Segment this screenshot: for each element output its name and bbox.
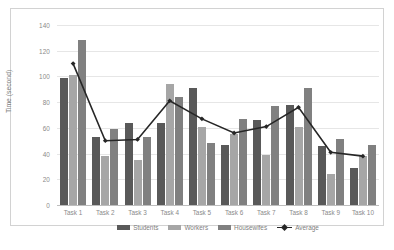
legend-item-students[interactable]: Students	[117, 224, 158, 231]
y-tick-label: 60	[43, 124, 50, 131]
x-tick-label: Task 3	[121, 207, 153, 221]
legend-label: Workers	[184, 224, 208, 231]
chart-frame: Time (second) 020406080100120140 Task 1T…	[10, 8, 384, 226]
bar-workers	[134, 160, 142, 205]
bar-students	[125, 123, 133, 205]
bar-set	[218, 25, 250, 205]
bar-students	[157, 123, 165, 205]
gridline	[57, 205, 379, 206]
legend-item-housewifes[interactable]: Housewifes	[218, 224, 267, 231]
bar-groups	[57, 25, 379, 205]
x-tick-label: Task 6	[218, 207, 250, 221]
bar-workers	[230, 134, 238, 205]
bar-students	[221, 145, 229, 205]
bar-workers	[262, 155, 270, 205]
x-tick-label: Task 8	[282, 207, 314, 221]
bar-group	[121, 25, 153, 205]
bar-students	[350, 168, 358, 205]
bar-students	[286, 105, 294, 205]
bar-set	[282, 25, 314, 205]
bar-workers	[69, 75, 77, 205]
bar-set	[154, 25, 186, 205]
bar-housewifes	[239, 119, 247, 205]
y-tick-label: 0	[46, 202, 50, 209]
legend-label: Students	[133, 224, 158, 231]
legend-swatch-icon	[117, 225, 130, 230]
bar-set	[315, 25, 347, 205]
x-axis-tick-labels: Task 1Task 2Task 3Task 4Task 5Task 6Task…	[57, 207, 379, 221]
bar-set	[250, 25, 282, 205]
bar-workers	[101, 156, 109, 205]
chart-legend: StudentsWorkersHousewifesAverage	[57, 221, 379, 233]
bar-set	[121, 25, 153, 205]
bar-workers	[327, 174, 335, 205]
bar-students	[92, 137, 100, 205]
x-tick-label: Task 5	[186, 207, 218, 221]
y-tick-label: 140	[39, 22, 50, 29]
y-tick-label: 40	[43, 150, 50, 157]
legend-swatch-icon	[277, 224, 292, 230]
legend-item-average[interactable]: Average	[277, 224, 319, 231]
bar-housewifes	[271, 106, 279, 205]
bar-group	[89, 25, 121, 205]
bar-group	[250, 25, 282, 205]
bar-workers	[198, 127, 206, 205]
bar-workers	[359, 156, 367, 205]
bar-housewifes	[175, 97, 183, 205]
bar-workers	[166, 84, 174, 205]
legend-label: Average	[295, 224, 319, 231]
bar-housewifes	[304, 88, 312, 205]
x-tick-label: Task 4	[154, 207, 186, 221]
bar-housewifes	[78, 40, 86, 205]
x-tick-label: Task 9	[315, 207, 347, 221]
plot-area	[57, 25, 379, 205]
bar-set	[186, 25, 218, 205]
bar-housewifes	[336, 139, 344, 205]
x-tick-label: Task 1	[57, 207, 89, 221]
bar-students	[253, 120, 261, 205]
bar-group	[186, 25, 218, 205]
y-axis-tick-labels: 020406080100120140	[11, 25, 55, 205]
bar-students	[189, 88, 197, 205]
bar-set	[89, 25, 121, 205]
y-tick-label: 20	[43, 176, 50, 183]
bar-housewifes	[207, 143, 215, 205]
bar-workers	[295, 127, 303, 205]
bar-set	[347, 25, 379, 205]
bar-group	[154, 25, 186, 205]
bar-group	[315, 25, 347, 205]
bar-group	[282, 25, 314, 205]
y-tick-label: 120	[39, 47, 50, 54]
bar-set	[57, 25, 89, 205]
y-tick-label: 100	[39, 73, 50, 80]
bar-housewifes	[110, 129, 118, 205]
x-tick-label: Task 10	[347, 207, 379, 221]
bar-students	[60, 78, 68, 205]
figure-container: Time (second) 020406080100120140 Task 1T…	[0, 0, 394, 250]
bar-group	[218, 25, 250, 205]
y-tick-label: 80	[43, 99, 50, 106]
x-tick-label: Task 7	[250, 207, 282, 221]
legend-label: Housewifes	[234, 224, 267, 231]
bar-students	[318, 146, 326, 205]
bar-housewifes	[143, 137, 151, 205]
x-tick-label: Task 2	[89, 207, 121, 221]
legend-swatch-icon	[168, 225, 181, 230]
bar-group	[57, 25, 89, 205]
legend-swatch-icon	[218, 225, 231, 230]
legend-item-workers[interactable]: Workers	[168, 224, 208, 231]
bar-group	[347, 25, 379, 205]
bar-housewifes	[368, 145, 376, 205]
